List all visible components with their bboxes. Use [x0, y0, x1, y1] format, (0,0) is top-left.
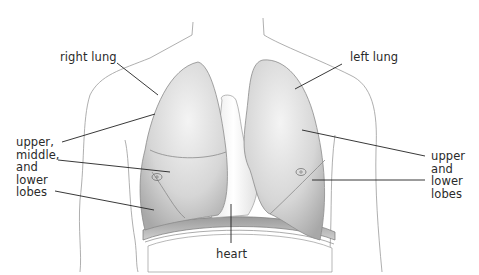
label-heart: heart: [216, 248, 247, 261]
label-right-lung: right lung: [60, 51, 117, 64]
lungs-diagram: right lung left lung upper, middle, and …: [0, 0, 479, 275]
label-left-lobes: upper and lower lobes: [431, 150, 465, 200]
label-right-lobes: upper, middle, and lower lobes: [16, 136, 60, 199]
right-lung-shape: [140, 62, 227, 230]
left-lung-shape: [244, 60, 325, 240]
label-left-lung: left lung: [350, 51, 398, 64]
lungs-illustration: [0, 0, 479, 275]
